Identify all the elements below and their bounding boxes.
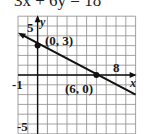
point-marker — [93, 72, 99, 78]
point-label-0-3: (0, 3) — [45, 33, 73, 48]
point-label-6-0: (6, 0) — [65, 81, 93, 96]
y-tick-neg5: -5 — [17, 119, 28, 134]
y-axis-label: y — [38, 15, 46, 29]
y-tick-5: 5 — [27, 20, 34, 35]
x-axis-label: x — [129, 76, 136, 90]
x-tick-8: 8 — [113, 60, 120, 75]
point-marker — [35, 43, 41, 49]
x-tick-neg1: -1 — [12, 77, 23, 92]
graph: 5y(0, 3)8x-1(6, 0)-5 — [0, 0, 150, 134]
